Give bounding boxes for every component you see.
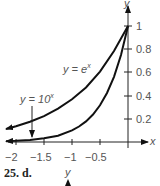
x-tick-label-neg0.5: −0.5: [85, 152, 107, 163]
curve-e-x: [6, 26, 128, 129]
y-tick-label-0.4: 0.4: [136, 91, 151, 102]
label-e-x: y = ex: [63, 62, 91, 75]
next-figure-y-label: y: [65, 167, 71, 178]
y-axis-label: y: [124, 0, 130, 9]
x-tick-label-neg2: −2: [5, 152, 18, 163]
y-tick-label-0.8: 0.8: [136, 44, 151, 55]
problem-caption: 25. d.: [4, 166, 32, 181]
eq-10-base: y = 10: [20, 93, 50, 105]
x-tick-label-neg1.5: −1.5: [30, 152, 52, 163]
x-axis-label: x: [150, 136, 156, 147]
x-tick-label-neg1: −1: [64, 152, 77, 163]
label-10-x: y = 10x: [20, 92, 54, 105]
y-tick-label-1: 1: [136, 21, 142, 32]
y-tick-label-0.6: 0.6: [136, 67, 151, 78]
y-tick-label-0.2: 0.2: [136, 114, 151, 125]
